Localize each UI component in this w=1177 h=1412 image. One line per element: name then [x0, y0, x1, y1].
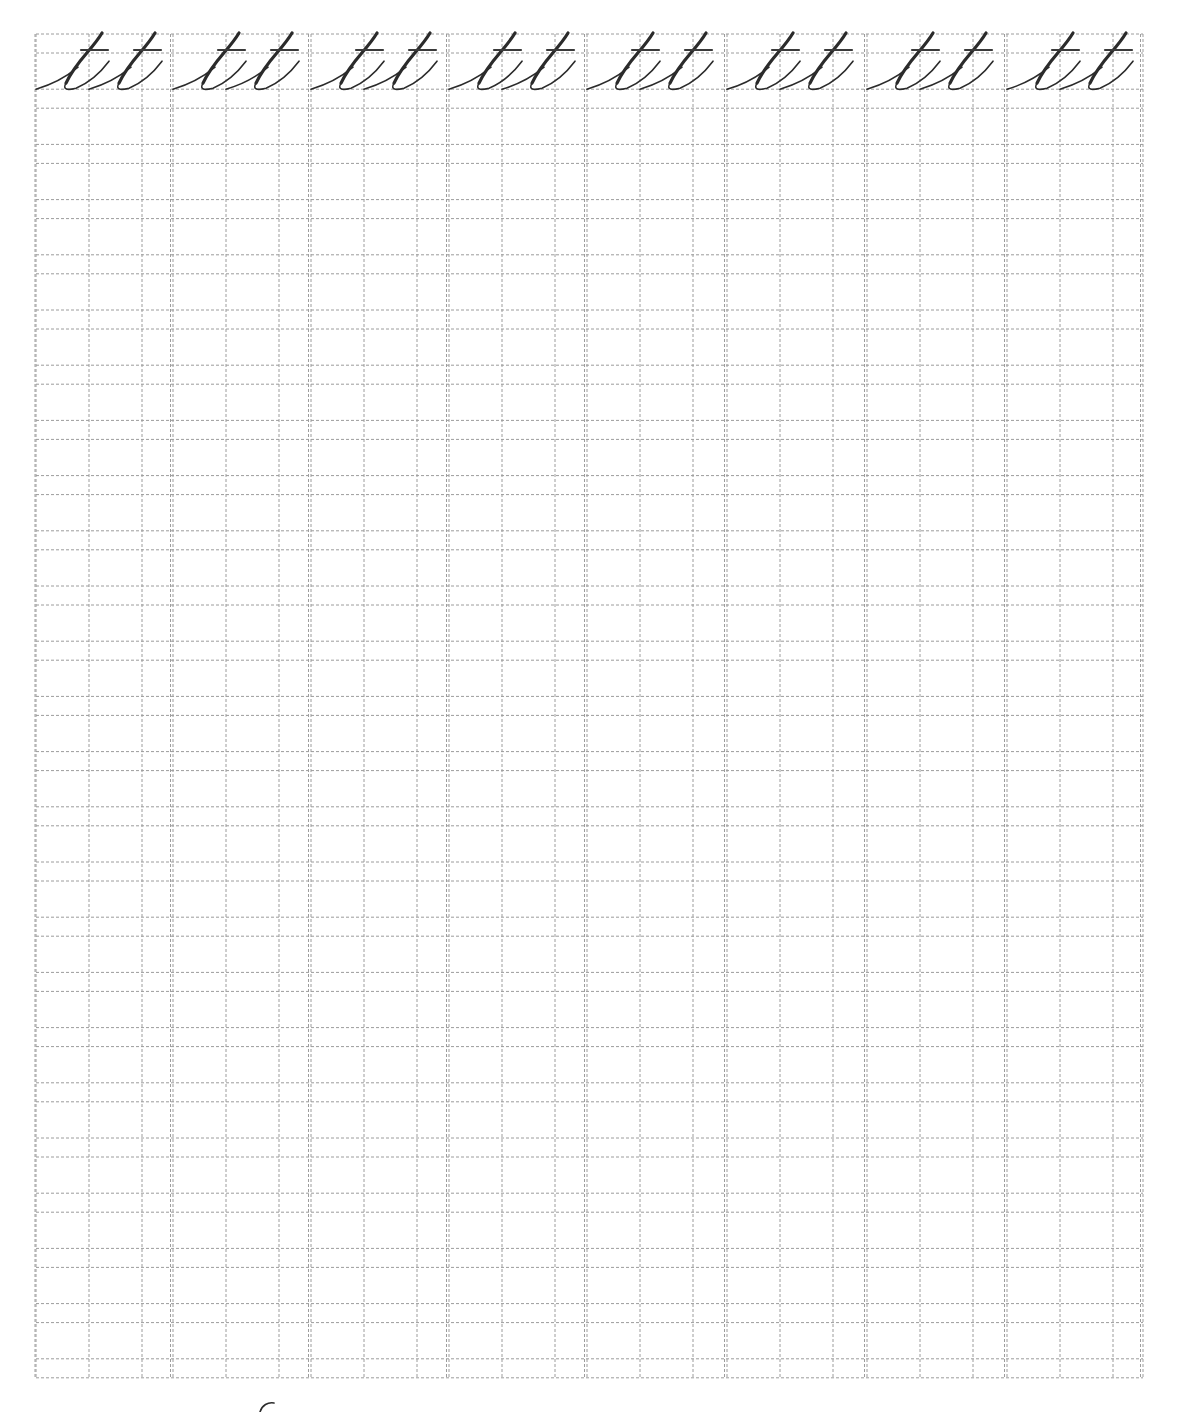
vertical-guide-lines — [35, 34, 1143, 1379]
model-letter-block — [311, 33, 437, 89]
cursive-t-glyph — [173, 33, 246, 89]
cursive-t-glyph — [1007, 33, 1080, 89]
cursive-t-glyph — [780, 33, 853, 89]
cursive-t-glyph — [640, 33, 713, 89]
cursive-t-glyph — [311, 33, 384, 89]
cursive-t-glyph — [449, 33, 522, 89]
cursive-t-glyph — [502, 33, 575, 89]
model-letter-block — [36, 33, 162, 89]
partial-letter-stroke — [260, 1403, 274, 1412]
model-letter-block — [173, 33, 299, 89]
cursive-t-glyph — [1060, 33, 1133, 89]
cursive-t-glyph — [727, 33, 800, 89]
handwriting-worksheet — [0, 0, 1177, 1412]
model-letter-block — [1007, 33, 1133, 89]
model-letter-block — [727, 33, 853, 89]
cursive-t-glyph — [36, 33, 109, 89]
model-letter-block — [867, 33, 993, 89]
cursive-t-glyph — [920, 33, 993, 89]
model-letter-block — [449, 33, 575, 89]
cutoff-stroke-mark — [260, 1403, 274, 1412]
horizontal-guide-lines — [36, 34, 1143, 1378]
cursive-t-glyph — [867, 33, 940, 89]
cursive-t-glyph — [364, 33, 437, 89]
cursive-t-glyph — [226, 33, 299, 89]
cursive-t-glyph — [89, 33, 162, 89]
model-letter-block — [587, 33, 713, 89]
cursive-t-glyph — [587, 33, 660, 89]
